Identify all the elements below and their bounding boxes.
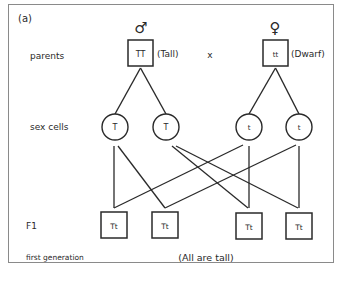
- svg-text:T: T: [112, 123, 118, 132]
- svg-text:t: t: [298, 124, 301, 132]
- female-symbol-icon: ♀: [270, 19, 281, 37]
- parent-male-phenotype: (Tall): [157, 49, 179, 59]
- parent-female-phenotype: (Dwarf): [291, 49, 325, 59]
- svg-text:T: T: [163, 123, 169, 132]
- panel-label: (a): [18, 13, 32, 24]
- offspring-0: Tt: [101, 212, 127, 238]
- gamete-0: T: [102, 114, 128, 140]
- row-label-parents: parents: [30, 51, 65, 61]
- cross-symbol: x: [207, 50, 213, 60]
- offspring-note: (All are tall): [178, 252, 233, 263]
- svg-text:Tt: Tt: [294, 223, 303, 232]
- parent-male: TT: [128, 40, 153, 66]
- parent-female: tt: [263, 40, 288, 66]
- monohybrid-cross-diagram: (a) ♂ ♀ parents sex cells F1 first gener…: [0, 0, 343, 293]
- offspring-2: Tt: [236, 213, 262, 239]
- male-symbol-icon: ♂: [134, 19, 147, 37]
- fertilization-lines: [114, 145, 299, 208]
- gamete-2: t: [236, 114, 262, 140]
- parent-male-genotype: TT: [135, 50, 146, 59]
- gamete-3: t: [286, 114, 312, 140]
- svg-text:t: t: [248, 124, 251, 132]
- svg-text:Tt: Tt: [244, 223, 253, 232]
- row-label-sex-cells: sex cells: [30, 122, 69, 132]
- offspring-1: Tt: [152, 212, 178, 238]
- svg-text:Tt: Tt: [109, 222, 118, 231]
- parent-gamete-lines: [115, 68, 299, 114]
- parent-female-genotype: tt: [273, 51, 279, 59]
- row-label-f1: F1: [26, 221, 37, 231]
- gamete-1: T: [153, 114, 179, 140]
- svg-text:Tt: Tt: [160, 222, 169, 231]
- offspring-3: Tt: [286, 213, 312, 239]
- row-label-first-generation: first generation: [26, 253, 84, 262]
